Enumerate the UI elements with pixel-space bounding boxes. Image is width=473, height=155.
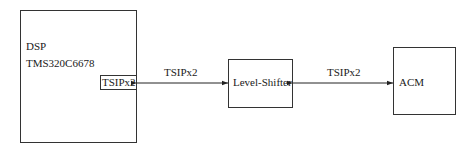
edge-label-levelshifter-acm: TSIPx2	[327, 67, 361, 78]
connector-wires	[0, 0, 473, 155]
edge-label-dsp-levelshifter: TSIPx2	[164, 67, 198, 78]
